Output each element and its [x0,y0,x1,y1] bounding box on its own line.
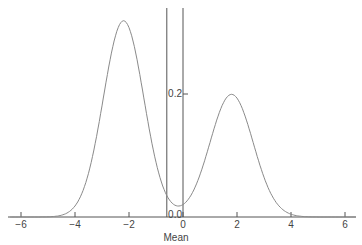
density-chart: −6−4−20246 0.00.2 Mean [0,0,362,245]
x-tick-label: 6 [342,219,348,230]
x-tick-label: −6 [15,219,27,230]
y-tick-label: 0.2 [168,88,182,99]
x-tick-label: 0 [180,219,186,230]
x-axis: −6−4−20246 [8,212,356,230]
x-axis-label: Mean [163,232,188,243]
x-tick-label: 4 [288,219,294,230]
x-tick-label: 2 [234,219,240,230]
x-tick-label: −4 [69,219,81,230]
x-tick-label: −2 [123,219,135,230]
y-tick-label: 0.0 [168,209,182,220]
y-axis: 0.00.2 [168,8,188,220]
